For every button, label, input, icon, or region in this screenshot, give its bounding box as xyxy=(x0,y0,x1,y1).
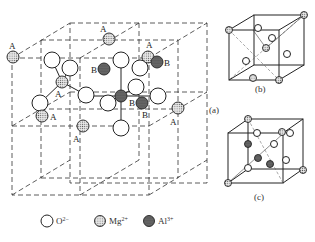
legend-al-icon xyxy=(144,216,155,227)
panel-b-cube xyxy=(226,12,308,84)
site-label-b: B xyxy=(142,110,148,120)
legend-mg-label: Mg2+ xyxy=(109,216,129,226)
site-label-a: A xyxy=(100,24,107,34)
panel-a-mg-ions xyxy=(7,33,184,132)
site-label-b: B xyxy=(91,65,97,75)
site-label-b: B xyxy=(164,58,170,68)
site-label-a: A xyxy=(9,41,16,51)
legend: O2− Mg2+ Al3+ xyxy=(41,215,174,227)
legend-oxygen-label: O2− xyxy=(56,216,70,226)
site-label-a: A xyxy=(146,40,153,50)
site-label-b: B xyxy=(129,98,135,108)
site-label-a: A xyxy=(50,112,57,122)
panel-a-caption: (a) xyxy=(209,105,219,115)
site-label-a: A xyxy=(55,89,62,99)
legend-al-label: Al3+ xyxy=(158,216,174,226)
legend-mg-icon xyxy=(95,216,106,227)
panel-a-oxygen-ions xyxy=(32,52,166,136)
spinel-structure-diagram: A A A A A A A B B B B (a) (b) xyxy=(0,0,315,242)
legend-oxygen-icon xyxy=(41,215,53,227)
site-label-a: A xyxy=(73,134,80,144)
panel-b-caption: (b) xyxy=(255,84,266,94)
site-label-a: A xyxy=(170,117,177,127)
panel-c-cube xyxy=(225,116,307,187)
panel-c-caption: (c) xyxy=(254,192,264,202)
